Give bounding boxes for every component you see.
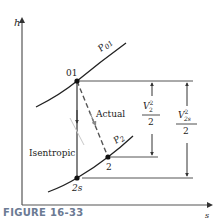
point-01 [74, 78, 79, 83]
svg-text:2: 2 [149, 106, 153, 113]
svg-text:2: 2 [148, 117, 154, 127]
isentropic-label: Isentropic [29, 148, 75, 158]
h-axis-label: h [14, 17, 20, 28]
point-2 [105, 154, 110, 159]
actual-label: Actual [95, 109, 125, 119]
p2-label: P2 [111, 131, 128, 148]
point-2s-label: 2s [71, 183, 83, 193]
figure-caption: FIGURE 16-33 [3, 207, 83, 218]
point-2s [74, 175, 79, 180]
actual-direction-arrow [90, 113, 95, 124]
h-s-diagram: h s P01 P2 01 2 2s Actual Isentropic V2 … [0, 0, 214, 223]
p2-isobar-curve [48, 136, 133, 192]
svg-text:2s: 2s [183, 115, 191, 122]
point-2-label: 2 [106, 162, 112, 172]
svg-text:2: 2 [183, 126, 189, 136]
p01-isobar-curve [36, 43, 126, 107]
actual-ke-fraction: V2 2 2 [142, 99, 160, 127]
point-01-label: 01 [66, 68, 77, 78]
s-axis-label: s [205, 211, 209, 220]
isentropic-ke-fraction: V2 2s 2 [176, 108, 197, 136]
